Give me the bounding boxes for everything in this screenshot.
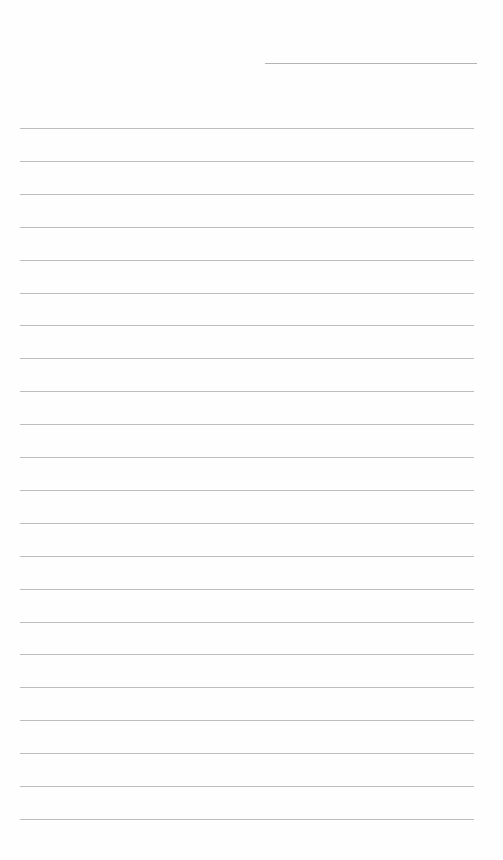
ruled-line xyxy=(20,720,474,721)
ruled-line xyxy=(20,194,474,195)
ruled-line xyxy=(20,523,474,524)
ruled-line xyxy=(20,293,474,294)
ruled-line xyxy=(20,161,474,162)
ruled-line xyxy=(20,654,474,655)
ruled-line xyxy=(20,819,474,820)
ruled-line xyxy=(20,424,474,425)
ruled-line xyxy=(20,753,474,754)
ruled-line xyxy=(20,687,474,688)
ruled-line xyxy=(20,325,474,326)
ruled-line xyxy=(20,227,474,228)
ruled-line xyxy=(20,391,474,392)
date-line xyxy=(265,63,477,64)
ruled-line xyxy=(20,260,474,261)
ruled-line xyxy=(20,589,474,590)
ruled-line xyxy=(20,457,474,458)
ruled-line xyxy=(20,490,474,491)
ruled-line xyxy=(20,556,474,557)
ruled-line xyxy=(20,622,474,623)
ruled-line xyxy=(20,786,474,787)
ruled-line xyxy=(20,358,474,359)
ruled-line xyxy=(20,128,474,129)
notepaper-page xyxy=(0,0,503,860)
